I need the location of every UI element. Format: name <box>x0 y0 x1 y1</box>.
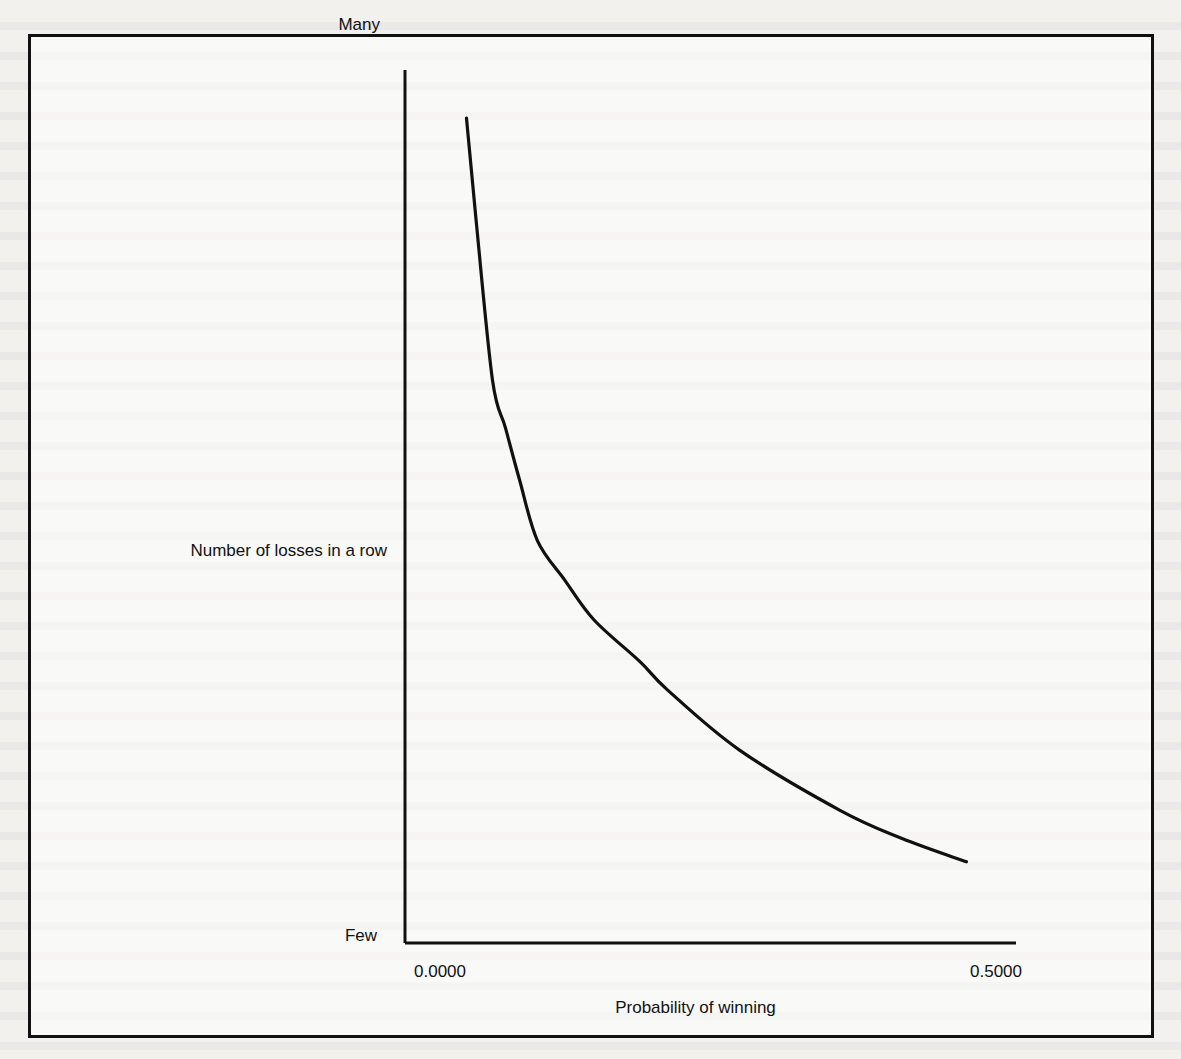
chart-svg: Many Few Number of losses in a row 0.000… <box>0 0 1181 1059</box>
y-tick-label-few: Few <box>345 926 378 945</box>
y-axis-label: Number of losses in a row <box>190 541 387 560</box>
x-tick-label-0: 0.0000 <box>414 962 466 981</box>
data-series-line <box>466 118 966 862</box>
x-axis-label: Probability of winning <box>615 998 776 1017</box>
x-tick-label-1: 0.5000 <box>970 962 1022 981</box>
y-tick-label-many: Many <box>338 15 380 34</box>
